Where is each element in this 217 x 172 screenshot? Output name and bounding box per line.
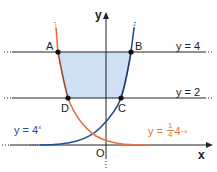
point-b-label: B bbox=[135, 40, 142, 52]
line-y-4-label: y = 4 bbox=[176, 40, 200, 52]
line-y-2-label: y = 2 bbox=[176, 86, 200, 98]
curve-quarter-label-exp: −x bbox=[181, 128, 188, 134]
curve-4-pow-x-label-main: y = 4 bbox=[14, 124, 38, 136]
point-b bbox=[128, 49, 133, 54]
point-c bbox=[118, 95, 123, 100]
curve-4-pow-x-label-exp: x bbox=[38, 124, 41, 130]
point-a-label: A bbox=[46, 40, 53, 52]
shaded-region bbox=[58, 52, 131, 98]
x-axis-arrow-icon bbox=[206, 142, 213, 148]
curve-quarter-label-prefix: y = bbox=[148, 125, 166, 137]
point-d-label: D bbox=[61, 102, 69, 114]
curve-quarter-label: y = 1 4 4−x bbox=[148, 122, 187, 139]
curve-4-pow-x-label: y = 4x bbox=[14, 124, 41, 136]
y-axis-arrow-icon bbox=[103, 12, 109, 19]
x-axis-label: x bbox=[198, 148, 205, 162]
point-a bbox=[55, 49, 60, 54]
point-d bbox=[65, 95, 70, 100]
point-c-label: C bbox=[118, 102, 126, 114]
origin-label: O bbox=[96, 147, 105, 159]
y-axis-label: y bbox=[95, 8, 102, 22]
fraction: 1 4 bbox=[167, 122, 173, 139]
fraction-denominator: 4 bbox=[168, 131, 172, 139]
